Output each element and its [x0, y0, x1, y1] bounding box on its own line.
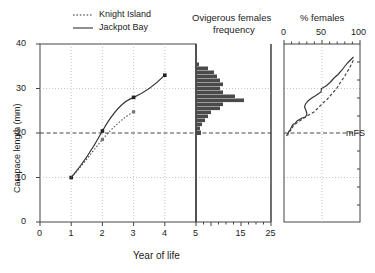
ovigerous-females-histogram — [196, 63, 244, 136]
histogram-bar — [196, 127, 200, 131]
middle-panel-title-line1: Ovigerous females — [192, 12, 271, 23]
histogram-bar — [196, 119, 205, 123]
middle-panel-title-line2: frequency — [213, 24, 255, 35]
x-tick-0: 0 — [37, 228, 42, 238]
right-tick-50: 50 — [316, 27, 326, 37]
histogram-bar — [196, 107, 220, 111]
histogram-bar — [196, 71, 214, 75]
histogram-bar — [196, 79, 220, 83]
right-panel-title: % females — [300, 12, 344, 23]
histogram-bar — [196, 131, 201, 136]
histogram-bar — [196, 91, 223, 95]
histogram-bar — [196, 99, 244, 103]
legend-label-jackpot-bay: Jackpot Bay — [99, 22, 148, 32]
right-tick-100: 100 — [351, 27, 366, 37]
histogram-bar — [196, 111, 211, 115]
percent-females-curve-knight-island — [287, 59, 355, 136]
histogram-bar — [196, 95, 235, 99]
histogram-bar — [196, 83, 223, 87]
right-tick-0: 0 — [281, 27, 286, 37]
x-axis-ticks-middle — [204, 222, 272, 226]
figure-canvas — [0, 0, 375, 273]
y-tick-40: 40 — [16, 38, 26, 48]
histogram-bar — [196, 63, 199, 67]
x-tick-25: 25 — [266, 228, 276, 238]
x-axis-title: Year of life — [133, 250, 180, 261]
y-tick-0: 0 — [21, 216, 26, 226]
x-tick-15: 15 — [236, 228, 246, 238]
growth-points-jackpot-bay — [69, 73, 166, 179]
right-panel-top-ticks — [284, 40, 360, 44]
histogram-bar — [196, 123, 202, 127]
percent-females-curve-jackpot-bay — [288, 57, 354, 136]
growth-curve-jackpot-bay — [71, 75, 165, 177]
histogram-bar — [196, 103, 223, 107]
y-tick-30: 30 — [16, 83, 26, 93]
x-tick-3: 3 — [131, 228, 136, 238]
histogram-bar — [196, 67, 208, 71]
histogram-bar — [196, 87, 220, 91]
x-axis-ticks-left — [40, 222, 196, 226]
histogram-bar — [196, 75, 217, 79]
mfs-annotation: mFS — [346, 128, 365, 138]
x-tick-4: 4 — [162, 228, 167, 238]
figure-root: Knight Island Jackpot Bay 0 10 20 30 40 … — [0, 0, 375, 273]
y-axis-ticks — [36, 44, 40, 222]
histogram-bar — [196, 115, 208, 119]
x-tick-1: 1 — [69, 228, 74, 238]
x-tick-5: 5 — [193, 228, 198, 238]
y-axis-title: Carapace length (mm) — [12, 103, 22, 193]
x-tick-2: 2 — [100, 228, 105, 238]
legend-label-knight-island: Knight Island — [99, 9, 151, 19]
